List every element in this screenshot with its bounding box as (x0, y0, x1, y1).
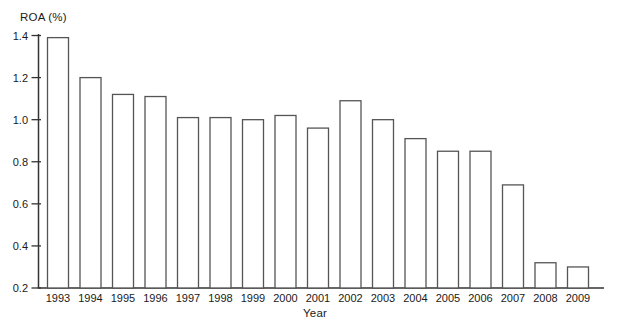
y-tick-label: 0.8 (13, 156, 28, 168)
x-label-1993: 1993 (46, 292, 70, 304)
y-tick-label: 1.2 (13, 72, 28, 84)
y-tick-label: 1.4 (13, 30, 28, 42)
bar-1996 (145, 97, 166, 288)
x-label-2005: 2005 (436, 292, 460, 304)
x-label-2006: 2006 (468, 292, 492, 304)
y-tick-label: 0.6 (13, 198, 28, 210)
x-label-1995: 1995 (111, 292, 135, 304)
y-tick-label: 0.4 (13, 240, 28, 252)
bar-2007 (503, 185, 524, 288)
chart-canvas: 1.41.21.00.80.60.40.21993199419951996199… (0, 0, 618, 332)
x-label-2003: 2003 (371, 292, 395, 304)
y-tick-label: 0.2 (13, 282, 28, 294)
bar-2009 (568, 267, 589, 288)
x-label-2001: 2001 (306, 292, 330, 304)
bar-2002 (340, 101, 361, 288)
bar-2001 (308, 128, 329, 288)
bar-2003 (373, 120, 394, 288)
bar-1998 (210, 118, 231, 288)
x-label-2008: 2008 (533, 292, 557, 304)
bar-1993 (48, 38, 69, 288)
bar-1997 (178, 118, 199, 288)
x-label-1997: 1997 (176, 292, 200, 304)
bar-2005 (438, 151, 459, 288)
bar-1995 (113, 94, 134, 288)
x-label-1998: 1998 (208, 292, 232, 304)
x-label-1996: 1996 (143, 292, 167, 304)
x-label-2007: 2007 (501, 292, 525, 304)
roa-by-year-bar-chart: 1.41.21.00.80.60.40.21993199419951996199… (0, 0, 618, 332)
x-label-2002: 2002 (338, 292, 362, 304)
x-label-1994: 1994 (78, 292, 102, 304)
x-label-2009: 2009 (566, 292, 590, 304)
x-label-2000: 2000 (273, 292, 297, 304)
x-label-2004: 2004 (403, 292, 427, 304)
bar-2000 (275, 115, 296, 288)
bar-2006 (470, 151, 491, 288)
x-axis-title: Year (275, 307, 355, 319)
x-label-1999: 1999 (241, 292, 265, 304)
bar-2008 (535, 263, 556, 288)
y-tick-label: 1.0 (13, 114, 28, 126)
bar-1999 (243, 120, 264, 288)
y-axis-title: ROA (%) (20, 11, 67, 23)
bar-1994 (80, 78, 101, 288)
bar-2004 (405, 139, 426, 288)
